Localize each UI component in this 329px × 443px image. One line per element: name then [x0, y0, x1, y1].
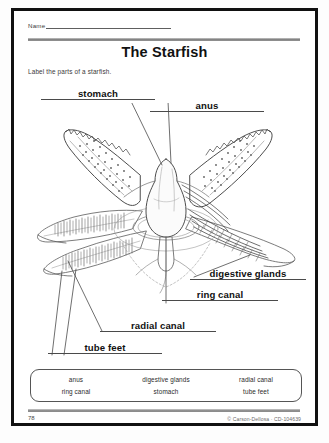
label-text-anus: anus: [150, 101, 264, 111]
label-text-stomach: stomach: [41, 89, 155, 99]
label-text-digestive-glands: digestive glands: [190, 269, 306, 279]
word-bank-column-2: digestive glands stomach: [121, 374, 211, 398]
label-write-line-anus[interactable]: [150, 111, 264, 112]
label-blank-ring-canal[interactable]: ring canal: [162, 290, 278, 301]
label-blank-radial-canal[interactable]: radial canal: [100, 321, 216, 332]
label-text-tube-feet: tube feet: [48, 343, 162, 353]
word-bank: anus ring canal digestive glands stomach…: [30, 369, 302, 402]
name-field[interactable]: Name: [28, 22, 171, 30]
worksheet-sheet: Name The Starfish Label the parts of a s…: [14, 11, 315, 423]
label-write-line-ring-canal[interactable]: [162, 300, 278, 301]
name-label: Name: [28, 22, 45, 30]
label-blank-tube-feet[interactable]: tube feet: [48, 343, 162, 354]
word-bank-column-1: anus ring canal: [31, 374, 121, 398]
label-blank-digestive-glands[interactable]: digestive glands: [190, 269, 306, 280]
label-write-line-digestive-glands[interactable]: [190, 279, 306, 280]
word-bank-item-stomach: stomach: [121, 386, 211, 398]
footer-divider: [28, 409, 300, 412]
word-bank-item-anus: anus: [31, 374, 121, 386]
label-write-line-radial-canal[interactable]: [100, 331, 216, 332]
label-text-ring-canal: ring canal: [162, 290, 278, 300]
label-blank-stomach[interactable]: stomach: [41, 89, 155, 100]
page-title: The Starfish: [14, 44, 315, 60]
word-bank-column-3: radial canal tube feet: [211, 374, 301, 398]
copyright-notice: © Carson-Dellosa · CD-104639: [227, 416, 301, 422]
label-blank-anus[interactable]: anus: [150, 101, 264, 112]
word-bank-item-digestive-glands: digestive glands: [121, 374, 211, 386]
word-bank-item-ring-canal: ring canal: [31, 386, 121, 398]
label-text-radial-canal: radial canal: [100, 321, 216, 331]
instruction-text: Label the parts of a starfish.: [28, 68, 111, 75]
word-bank-item-radial-canal: radial canal: [211, 374, 301, 386]
label-write-line-stomach[interactable]: [41, 99, 155, 100]
worksheet-page: Name The Starfish Label the parts of a s…: [0, 0, 329, 443]
header-divider: [28, 38, 300, 41]
page-number: 78: [28, 415, 35, 421]
page-border: Name The Starfish Label the parts of a s…: [11, 8, 318, 426]
label-write-line-tube-feet[interactable]: [48, 353, 162, 354]
word-bank-item-tube-feet: tube feet: [211, 386, 301, 398]
name-write-line[interactable]: [46, 28, 171, 29]
